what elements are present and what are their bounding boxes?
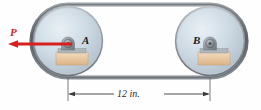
pulley-label-b: B <box>193 35 200 46</box>
pulley-belt-figure: P A B 12 in. <box>0 0 261 110</box>
dimension-label: 12 in. <box>117 89 140 99</box>
force-label-p: P <box>10 27 17 38</box>
axle-center-b <box>209 42 212 45</box>
force-arrow-head <box>8 40 18 48</box>
base-block-a <box>56 52 88 65</box>
base-block-b <box>198 52 230 65</box>
dimension-arrow-right <box>203 92 210 96</box>
dimension-arrow-left <box>68 92 75 96</box>
pulley-label-a: A <box>82 35 89 46</box>
